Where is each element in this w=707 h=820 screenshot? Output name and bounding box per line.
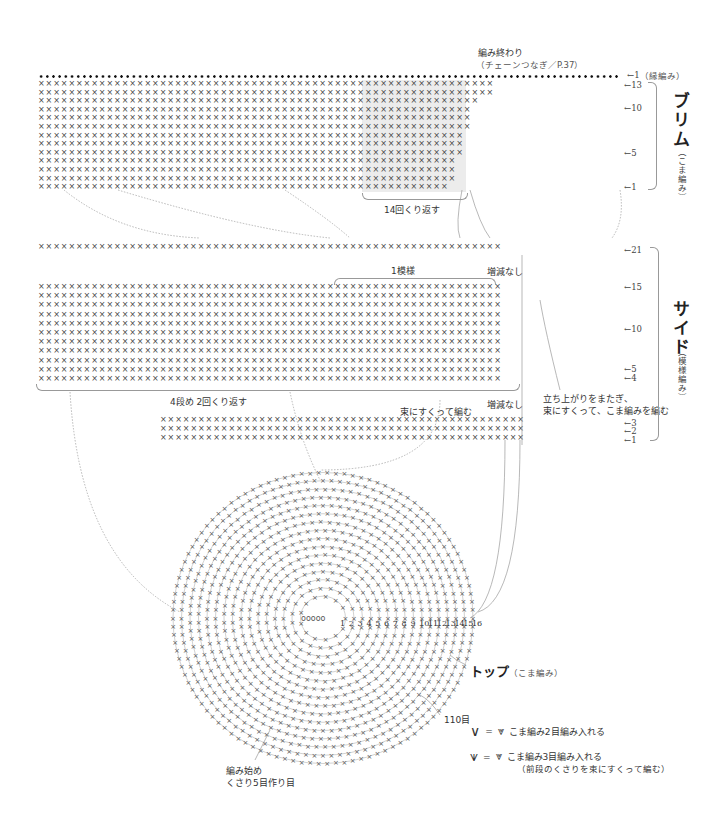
legend-inc3-note: （前段のくさりを束にすくって編む） — [517, 762, 670, 774]
inc3-detail-icon: ⩔ — [496, 750, 502, 763]
inc2-symbol-icon: ∨ — [470, 723, 480, 739]
inc3-symbol-icon: ⩛ — [470, 748, 478, 765]
guide-lines — [0, 0, 707, 820]
legend-inc2-text: こま編み2目編み入れる — [509, 725, 605, 738]
legend-item-inc2: ∨ = ⩔ こま編み2目編み入れる — [470, 723, 605, 739]
inc2-detail-icon: ⩔ — [498, 725, 504, 738]
